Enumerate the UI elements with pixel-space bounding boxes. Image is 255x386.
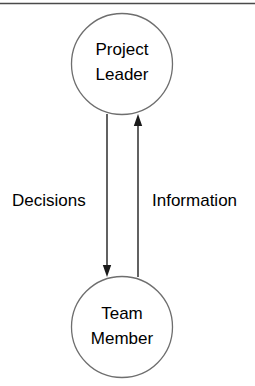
decisions-arrowhead-icon xyxy=(103,265,111,277)
edge-information xyxy=(134,114,142,277)
node-team-member[interactable]: Team Member xyxy=(72,277,173,378)
node-project-leader[interactable]: Project Leader xyxy=(72,14,173,115)
project-leader-circle[interactable] xyxy=(72,14,173,115)
diagram-canvas: Project Leader Team Member Decisions Inf… xyxy=(0,0,255,386)
edge-decisions xyxy=(103,114,111,277)
org-flow-diagram: Project Leader Team Member Decisions Inf… xyxy=(0,0,255,386)
team-member-label-line1: Team xyxy=(101,304,143,323)
project-leader-label-line2: Leader xyxy=(96,65,149,84)
edge-label-information: Information xyxy=(152,191,237,210)
edge-label-decisions: Decisions xyxy=(12,191,86,210)
information-arrowhead-icon xyxy=(134,114,142,126)
project-leader-label-line1: Project xyxy=(96,40,149,59)
team-member-circle[interactable] xyxy=(72,277,173,378)
team-member-label-line2: Member xyxy=(91,329,154,348)
